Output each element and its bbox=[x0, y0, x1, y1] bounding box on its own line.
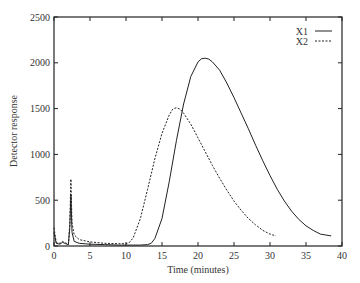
legend: X1 X2 bbox=[296, 26, 332, 47]
data-series bbox=[54, 58, 331, 245]
y-tick-label: 0 bbox=[45, 241, 50, 252]
plot-frame bbox=[54, 17, 342, 246]
x-tick-label: 25 bbox=[229, 250, 239, 261]
y-tick-label: 1000 bbox=[30, 149, 50, 160]
x-axis-title: Time (minutes) bbox=[167, 264, 229, 276]
x-tick-label: 10 bbox=[121, 250, 131, 261]
y-tick-label: 2500 bbox=[30, 12, 50, 23]
x-tick-label: 20 bbox=[193, 250, 203, 261]
x-tick-label: 15 bbox=[157, 250, 167, 261]
y-tick-label: 1500 bbox=[30, 103, 50, 114]
x-tick-label: 5 bbox=[88, 250, 93, 261]
series-line-x2 bbox=[54, 108, 276, 245]
y-tick-label: 2000 bbox=[30, 57, 50, 68]
x-tick-label: 0 bbox=[52, 250, 57, 261]
legend-label-x2: X2 bbox=[296, 36, 308, 47]
x-tick-label: 40 bbox=[337, 250, 347, 261]
x-tick-label: 35 bbox=[301, 250, 311, 261]
x-tick-label: 30 bbox=[265, 250, 275, 261]
y-axis-title: Detector response bbox=[8, 94, 19, 166]
chromatogram-chart: 05001000150020002500 0510152025303540 Ti… bbox=[0, 0, 360, 283]
x-axis-ticks: 0510152025303540 bbox=[52, 17, 348, 261]
y-tick-label: 500 bbox=[35, 195, 50, 206]
series-line-x1 bbox=[54, 58, 331, 245]
